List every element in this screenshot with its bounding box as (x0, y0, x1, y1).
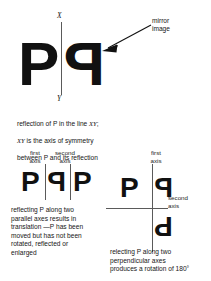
caption-line-2: XY is the axis of symmetry (17, 137, 94, 144)
first-axis-line (45, 164, 46, 200)
caption-rotation: relecting P along two perpendicular axes… (110, 248, 211, 274)
caption-translation: reflecting P along two parallel axes res… (11, 206, 106, 258)
original-letter-p: P (18, 33, 59, 95)
mirror-image-arrow-icon (96, 18, 156, 58)
letter-p-original: P (21, 168, 40, 196)
parallel-axes-panel: first axis second axis P P P reflecting … (0, 146, 106, 281)
axis-label-y: Y (57, 94, 61, 103)
letter-p-first-reflection: P (154, 174, 173, 202)
letter-p-original: P (120, 174, 139, 202)
first-axis-label: first axis (142, 149, 170, 164)
second-axis-line (70, 164, 71, 200)
second-axis-line (106, 208, 168, 209)
first-axis-label: first axis (22, 149, 48, 164)
caption-line-1: reflection of P in the line XY; (17, 120, 99, 127)
axis-label-x: X (57, 11, 62, 20)
perpendicular-axes-panel: first axis second axis P P P relecting P… (106, 146, 211, 281)
letter-p-second-reflection: P (73, 168, 92, 196)
letter-p-first-reflection: P (47, 168, 66, 196)
transformation-geometry-figure: P P X Y mirror image reflection of P in … (0, 0, 211, 281)
second-axis-label: second axis (50, 149, 80, 164)
letter-p-rotated-180: P (154, 212, 173, 240)
reflection-panel: P P X Y mirror image (0, 0, 211, 108)
mirror-axis-line (61, 22, 62, 95)
